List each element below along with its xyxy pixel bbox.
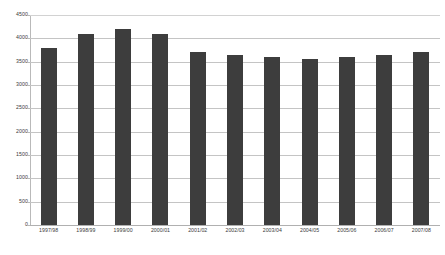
y-tick-label: 4500 xyxy=(2,12,28,17)
x-tick-label: 2001/02 xyxy=(188,228,207,233)
bar-chart: 050010001500200025003000350040004500 199… xyxy=(0,0,445,255)
y-tick-label: 3000 xyxy=(2,82,28,87)
bar[interactable] xyxy=(152,34,168,225)
y-tick-mark xyxy=(27,62,30,63)
bar[interactable] xyxy=(302,59,318,225)
bar-slot xyxy=(142,15,179,225)
x-tick-label: 2007/08 xyxy=(412,228,431,233)
y-tick-mark xyxy=(27,15,30,16)
y-axis-labels: 050010001500200025003000350040004500 xyxy=(0,15,28,225)
bar[interactable] xyxy=(339,57,355,225)
x-tick-label: 2004/05 xyxy=(300,228,319,233)
x-tick-label: 2002/03 xyxy=(225,228,244,233)
bar[interactable] xyxy=(264,57,280,225)
bar-slot xyxy=(216,15,253,225)
bar[interactable] xyxy=(78,34,94,225)
y-tick-label: 0 xyxy=(2,222,28,227)
bar-slot xyxy=(179,15,216,225)
x-tick-label: 1998/99 xyxy=(76,228,95,233)
bar-slot xyxy=(30,15,67,225)
bar-slot xyxy=(403,15,440,225)
bar-slot xyxy=(328,15,365,225)
bar[interactable] xyxy=(413,52,429,225)
y-tick-mark xyxy=(27,225,30,226)
x-tick-label: 2006/07 xyxy=(375,228,394,233)
gridline-0 xyxy=(30,225,440,226)
y-tick-mark xyxy=(27,132,30,133)
bar[interactable] xyxy=(227,55,243,225)
y-tick-mark xyxy=(27,38,30,39)
x-tick-label: 1997/98 xyxy=(39,228,58,233)
x-tick-label: 2000/01 xyxy=(151,228,170,233)
y-tick-label: 2500 xyxy=(2,106,28,111)
x-tick-label: 2005/06 xyxy=(337,228,356,233)
y-tick-label: 1000 xyxy=(2,176,28,181)
y-tick-label: 1500 xyxy=(2,152,28,157)
y-tick-label: 3500 xyxy=(2,59,28,64)
bar-slot xyxy=(67,15,104,225)
bar-slot xyxy=(254,15,291,225)
x-tick-label: 2003/04 xyxy=(263,228,282,233)
bar-slot xyxy=(105,15,142,225)
bar-slot xyxy=(365,15,402,225)
y-tick-mark xyxy=(27,155,30,156)
x-tick-label: 1999/00 xyxy=(114,228,133,233)
y-tick-label: 2000 xyxy=(2,129,28,134)
bar[interactable] xyxy=(376,55,392,225)
y-tick-mark xyxy=(27,202,30,203)
bar[interactable] xyxy=(115,29,131,225)
y-tick-mark xyxy=(27,178,30,179)
y-tick-mark xyxy=(27,85,30,86)
y-tick-label: 500 xyxy=(2,199,28,204)
y-tick-label: 4000 xyxy=(2,36,28,41)
y-tick-mark xyxy=(27,108,30,109)
bars-layer xyxy=(30,15,440,225)
bar[interactable] xyxy=(41,48,57,225)
bar[interactable] xyxy=(190,52,206,225)
bar-slot xyxy=(291,15,328,225)
x-axis-labels: 1997/981998/991999/002000/012001/022002/… xyxy=(30,228,440,244)
